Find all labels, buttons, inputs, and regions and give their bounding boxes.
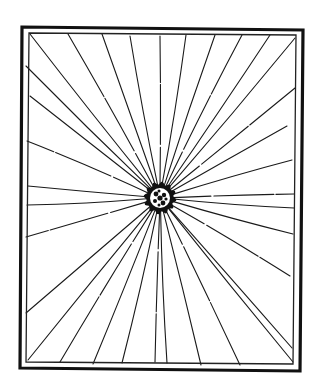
ray-line [171,126,287,192]
ray-line [161,211,167,363]
ray-line [102,34,156,186]
ray-line [166,210,240,365]
ray-line [155,211,160,362]
ray-line [28,186,147,197]
ray-line [168,208,293,362]
ray-line [168,38,295,188]
ray-line [122,211,157,363]
ray-line [173,194,294,198]
ray-line [163,211,201,365]
ray-line [173,201,294,234]
ray-line [26,207,150,314]
drawing-canvas [0,0,320,391]
ray-line [166,35,242,186]
ray-line [130,36,158,185]
ray-line [26,202,148,237]
ray-line [60,209,153,362]
ray-line [171,205,290,276]
ray-line [93,210,155,364]
ray-line [27,199,147,205]
ray-line [160,36,161,185]
ray-line [162,35,186,185]
ray-line [173,160,293,194]
ray-line [27,141,148,193]
ray-line [26,66,151,189]
ray-line [68,34,154,187]
